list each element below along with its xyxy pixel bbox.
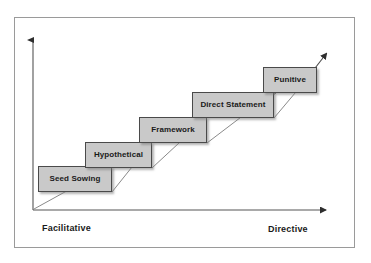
step-box-hypothetical[interactable]: Hypothetical [85, 142, 152, 168]
step-label-seed-sowing: Seed Sowing [50, 175, 101, 183]
axis-label-directive: Directive [268, 224, 308, 234]
axis-label-facilitative: Facilitative [42, 223, 91, 233]
step-label-framework: Framework [151, 126, 195, 134]
step-box-direct-statement[interactable]: Direct Statement [192, 92, 274, 118]
step-box-framework[interactable]: Framework [139, 117, 207, 143]
step-box-punitive[interactable]: Punitive [263, 67, 317, 93]
step-label-punitive: Punitive [274, 76, 306, 84]
step-label-direct-statement: Direct Statement [200, 101, 265, 109]
step-label-hypothetical: Hypothetical [94, 151, 143, 159]
diagram-canvas: Seed Sowing Hypothetical Framework Direc… [0, 0, 371, 263]
step-box-seed-sowing[interactable]: Seed Sowing [38, 166, 112, 192]
